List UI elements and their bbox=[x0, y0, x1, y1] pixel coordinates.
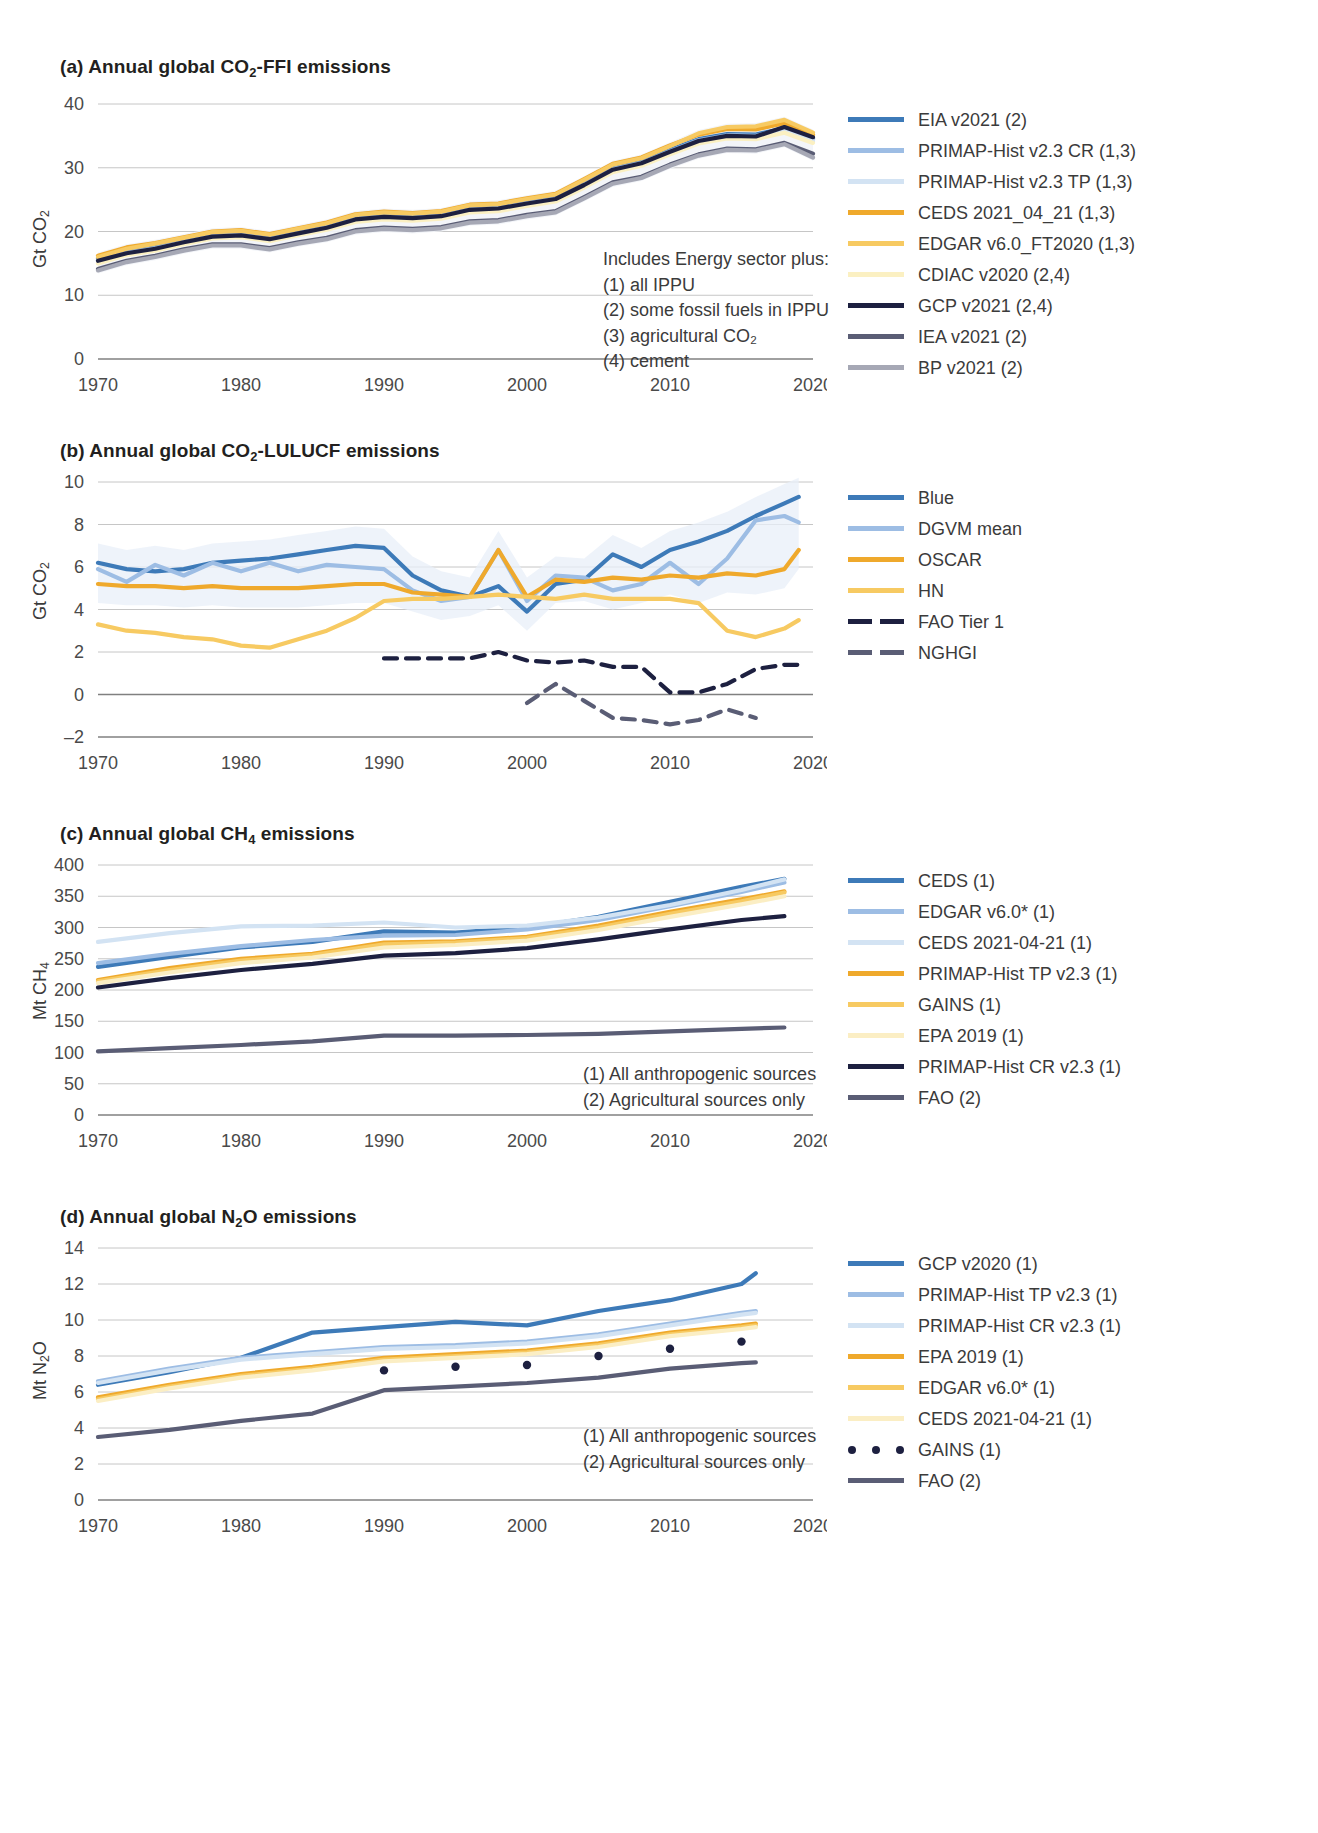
legend-label: EIA v2021 (2) bbox=[918, 111, 1027, 129]
panel-note-d: (1) All anthropogenic sources (2) Agricu… bbox=[583, 1424, 816, 1475]
legend-line-icon bbox=[848, 1478, 904, 1483]
legend-line-icon bbox=[880, 619, 904, 624]
legend-swatch-icon bbox=[848, 327, 904, 347]
legend-item[interactable]: EIA v2021 (2) bbox=[848, 104, 1136, 135]
legend-label: PRIMAP-Hist TP v2.3 (1) bbox=[918, 965, 1117, 983]
legend-item[interactable]: FAO (2) bbox=[848, 1465, 1121, 1496]
legend-swatch-icon bbox=[848, 1347, 904, 1367]
legend-item[interactable]: EPA 2019 (1) bbox=[848, 1341, 1121, 1372]
legend-line-icon bbox=[848, 1064, 904, 1069]
legend-item[interactable]: PRIMAP-Hist CR v2.3 (1) bbox=[848, 1310, 1121, 1341]
legend-line-icon bbox=[848, 365, 904, 370]
legend-item[interactable]: PRIMAP-Hist CR v2.3 (1) bbox=[848, 1051, 1121, 1082]
legend-dot-icon bbox=[896, 1446, 904, 1454]
legend-item[interactable]: EDGAR v6.0_FT2020 (1,3) bbox=[848, 228, 1136, 259]
legend-d: GCP v2020 (1)PRIMAP-Hist TP v2.3 (1)PRIM… bbox=[848, 1248, 1121, 1496]
legend-item[interactable]: EDGAR v6.0* (1) bbox=[848, 1372, 1121, 1403]
legend-item[interactable]: FAO Tier 1 bbox=[848, 606, 1022, 637]
y-tick-label: –2 bbox=[64, 727, 84, 747]
legend-label: CEDS (1) bbox=[918, 872, 995, 890]
legend-item[interactable]: NGHGI bbox=[848, 637, 1022, 668]
legend-item[interactable]: CEDS 2021_04_21 (1,3) bbox=[848, 197, 1136, 228]
legend-item[interactable]: OSCAR bbox=[848, 544, 1022, 575]
legend-item[interactable]: EPA 2019 (1) bbox=[848, 1020, 1121, 1051]
series-line bbox=[384, 652, 799, 692]
legend-swatch-icon bbox=[848, 234, 904, 254]
legend-item[interactable]: CEDS (1) bbox=[848, 865, 1121, 896]
legend-item[interactable]: PRIMAP-Hist TP v2.3 (1) bbox=[848, 1279, 1121, 1310]
legend-label: PRIMAP-Hist TP v2.3 (1) bbox=[918, 1286, 1117, 1304]
legend-item[interactable]: PRIMAP-Hist v2.3 CR (1,3) bbox=[848, 135, 1136, 166]
legend-item[interactable]: CEDS 2021-04-21 (1) bbox=[848, 927, 1121, 958]
legend-item[interactable]: BP v2021 (2) bbox=[848, 352, 1136, 383]
y-tick-label: 6 bbox=[74, 557, 84, 577]
legend-item[interactable]: CEDS 2021-04-21 (1) bbox=[848, 1403, 1121, 1434]
legend-swatch-icon bbox=[848, 203, 904, 223]
x-tick-label: 1980 bbox=[221, 375, 261, 395]
legend-item[interactable]: DGVM mean bbox=[848, 513, 1022, 544]
legend-item[interactable]: GCP v2020 (1) bbox=[848, 1248, 1121, 1279]
legend-item[interactable]: GCP v2021 (2,4) bbox=[848, 290, 1136, 321]
legend-item[interactable]: HN bbox=[848, 575, 1022, 606]
legend-line-icon bbox=[848, 909, 904, 914]
legend-swatch-icon bbox=[848, 933, 904, 953]
legend-line-icon bbox=[848, 557, 904, 562]
y-tick-label: 0 bbox=[74, 685, 84, 705]
legend-line-icon bbox=[848, 148, 904, 153]
legend-swatch-icon bbox=[848, 296, 904, 316]
x-tick-label: 2000 bbox=[507, 753, 547, 773]
x-tick-label: 2000 bbox=[507, 1516, 547, 1536]
legend-swatch-icon bbox=[848, 1378, 904, 1398]
panel-note-c: (1) All anthropogenic sources (2) Agricu… bbox=[583, 1062, 816, 1113]
legend-line-icon bbox=[848, 1385, 904, 1390]
legend-label: CEDS 2021-04-21 (1) bbox=[918, 1410, 1092, 1428]
series-line bbox=[98, 1028, 784, 1052]
y-tick-label: 12 bbox=[64, 1274, 84, 1294]
legend-line-icon bbox=[848, 495, 904, 500]
data-point-marker bbox=[451, 1363, 459, 1371]
legend-label: EDGAR v6.0* (1) bbox=[918, 1379, 1055, 1397]
legend-label: IEA v2021 (2) bbox=[918, 328, 1027, 346]
legend-line-icon bbox=[848, 650, 872, 655]
legend-swatch-icon bbox=[848, 1471, 904, 1491]
legend-line-icon bbox=[848, 1261, 904, 1266]
legend-item[interactable]: IEA v2021 (2) bbox=[848, 321, 1136, 352]
y-tick-label: 350 bbox=[54, 886, 84, 906]
legend-item[interactable]: Blue bbox=[848, 482, 1022, 513]
legend-item[interactable]: GAINS (1) bbox=[848, 989, 1121, 1020]
legend-label: PRIMAP-Hist CR v2.3 (1) bbox=[918, 1058, 1121, 1076]
legend-label: OSCAR bbox=[918, 551, 982, 569]
legend-swatch-icon bbox=[848, 964, 904, 984]
legend-item[interactable]: EDGAR v6.0* (1) bbox=[848, 896, 1121, 927]
y-tick-label: 10 bbox=[64, 285, 84, 305]
legend-swatch-icon bbox=[848, 1440, 904, 1460]
legend-label: CEDS 2021-04-21 (1) bbox=[918, 934, 1092, 952]
legend-item[interactable]: FAO (2) bbox=[848, 1082, 1121, 1113]
legend-label: EDGAR v6.0_FT2020 (1,3) bbox=[918, 235, 1135, 253]
legend-swatch-icon bbox=[848, 902, 904, 922]
x-tick-label: 2020 bbox=[793, 375, 827, 395]
y-tick-label: 2 bbox=[74, 642, 84, 662]
figure-root: (a) Annual global CO2-FFI emissionsGt CO… bbox=[0, 0, 1318, 1833]
plot-area-b: –20246810197019801990200020102020 bbox=[36, 472, 827, 781]
y-tick-label: 0 bbox=[74, 1105, 84, 1125]
legend-item[interactable]: CDIAC v2020 (2,4) bbox=[848, 259, 1136, 290]
legend-line-icon bbox=[848, 526, 904, 531]
x-tick-label: 2000 bbox=[507, 1131, 547, 1151]
legend-label: PRIMAP-Hist v2.3 CR (1,3) bbox=[918, 142, 1136, 160]
legend-swatch-icon bbox=[848, 141, 904, 161]
x-tick-label: 2020 bbox=[793, 1131, 827, 1151]
x-tick-label: 1970 bbox=[78, 1516, 118, 1536]
legend-line-icon bbox=[848, 619, 872, 624]
legend-swatch-icon bbox=[848, 1254, 904, 1274]
y-tick-label: 300 bbox=[54, 918, 84, 938]
legend-label: PRIMAP-Hist v2.3 TP (1,3) bbox=[918, 173, 1132, 191]
y-tick-label: 4 bbox=[74, 1418, 84, 1438]
y-tick-label: 8 bbox=[74, 1346, 84, 1366]
data-point-marker bbox=[737, 1337, 745, 1345]
legend-item[interactable]: PRIMAP-Hist v2.3 TP (1,3) bbox=[848, 166, 1136, 197]
legend-line-icon bbox=[848, 1033, 904, 1038]
legend-item[interactable]: GAINS (1) bbox=[848, 1434, 1121, 1465]
x-tick-label: 1990 bbox=[364, 375, 404, 395]
legend-item[interactable]: PRIMAP-Hist TP v2.3 (1) bbox=[848, 958, 1121, 989]
